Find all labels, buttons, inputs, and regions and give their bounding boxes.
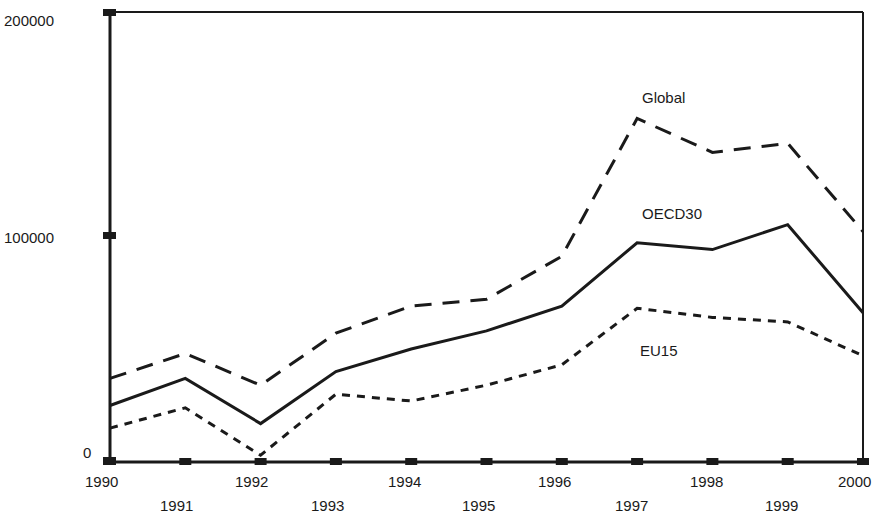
x-tick-label-1994: 1994 xyxy=(388,473,421,490)
x-tick-label-1996: 1996 xyxy=(538,473,571,490)
y-tick-100000 xyxy=(103,232,116,239)
series-label-eu15: EU15 xyxy=(640,342,678,359)
x-tick-1991 xyxy=(179,458,191,465)
line-chart: 200000 100000 0 1990 1992 1994 1996 1998… xyxy=(0,0,875,515)
y-tick-label-200000: 200000 xyxy=(4,12,54,29)
x-tick-1999 xyxy=(782,458,794,465)
y-tick-label-0: 0 xyxy=(83,444,91,461)
x-tick-1992 xyxy=(255,458,267,465)
x-tick-label-1998: 1998 xyxy=(690,473,723,490)
x-tick-1997 xyxy=(631,458,643,465)
chart-canvas: 200000 100000 0 1990 1992 1994 1996 1998… xyxy=(0,0,875,515)
x-tick-1993 xyxy=(330,458,342,465)
y-tick-label-100000: 100000 xyxy=(4,229,54,246)
series-label-global: Global xyxy=(642,89,685,106)
x-tick-1994 xyxy=(405,458,417,465)
x-tick-1996 xyxy=(556,458,568,465)
series-label-oecd30: OECD30 xyxy=(642,205,702,222)
x-tick-label-1997: 1997 xyxy=(615,497,648,514)
y-tick-200000 xyxy=(103,9,116,16)
series-layer xyxy=(110,119,863,456)
x-tick-label-2000: 2000 xyxy=(838,473,871,490)
x-tick-label-1991: 1991 xyxy=(160,497,193,514)
x-tick-2000 xyxy=(857,458,869,465)
x-tick-label-1995: 1995 xyxy=(462,497,495,514)
x-tick-1990 xyxy=(104,458,116,465)
x-tick-label-1999: 1999 xyxy=(765,497,798,514)
x-tick-1995 xyxy=(481,458,493,465)
x-tick-1998 xyxy=(706,458,718,465)
x-tick-label-1993: 1993 xyxy=(311,497,344,514)
series-line-global xyxy=(110,119,863,386)
x-tick-label-1990: 1990 xyxy=(85,473,118,490)
series-line-oecd30 xyxy=(110,225,863,424)
x-tick-label-1992: 1992 xyxy=(235,473,268,490)
